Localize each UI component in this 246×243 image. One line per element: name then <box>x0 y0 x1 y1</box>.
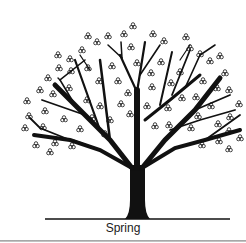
bottom-border <box>0 240 246 242</box>
tree-trunk <box>125 165 150 219</box>
spring-tree-illustration <box>0 0 246 243</box>
figure-caption: Spring <box>0 221 246 235</box>
